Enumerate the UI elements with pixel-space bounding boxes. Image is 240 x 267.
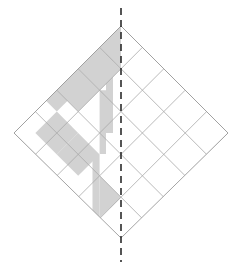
grid-line-dr-5 xyxy=(100,112,207,219)
grid-line-dl-2 xyxy=(100,47,207,154)
shaded-patch-group xyxy=(35,26,121,218)
grid-line-dl-5 xyxy=(35,112,142,219)
shaded-patch-strip-lower xyxy=(93,154,100,218)
quilt-diagram-svg: Rotated square grid with shaded patches … xyxy=(0,0,240,267)
shaded-patch-bottom-triangle xyxy=(100,176,121,218)
figure-root: Rotated square grid with shaded patches … xyxy=(0,0,240,267)
grid-line-dr-4 xyxy=(78,90,185,197)
shaded-patch-strip-mid xyxy=(100,90,106,154)
